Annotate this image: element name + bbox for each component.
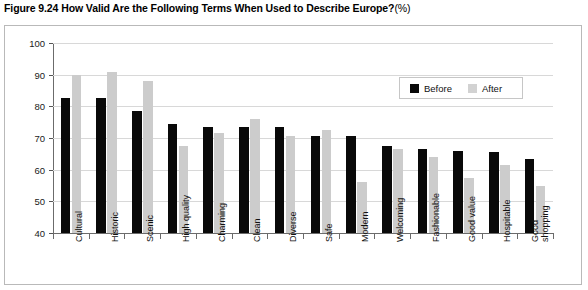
y-axis-tick-label: 40 bbox=[19, 228, 45, 239]
x-axis-category-label: Hospitable bbox=[503, 199, 513, 242]
x-axis-category-label: Welcoming bbox=[396, 198, 406, 242]
y-axis-tick-mark bbox=[49, 201, 53, 202]
x-axis-tick-mark bbox=[410, 234, 411, 239]
x-axis-tick-mark bbox=[232, 234, 233, 239]
legend-item-after: After bbox=[468, 83, 502, 94]
x-axis-tick-mark bbox=[553, 234, 554, 239]
x-axis-category-label: Cultural bbox=[75, 211, 85, 242]
x-axis-category-label: Goodshopping bbox=[531, 205, 550, 242]
x-axis-category-label: Scenic bbox=[146, 215, 156, 242]
legend-label-after: After bbox=[482, 83, 502, 94]
x-axis-category-label: Clean bbox=[253, 218, 263, 242]
x-axis-category-label: Diverse bbox=[289, 211, 299, 242]
x-axis-tick-mark bbox=[267, 234, 268, 239]
y-axis-tick-label: 60 bbox=[19, 164, 45, 175]
y-axis-tick-mark bbox=[49, 75, 53, 76]
x-axis-tick-mark bbox=[517, 234, 518, 239]
x-axis-category-label: Charming bbox=[218, 203, 228, 242]
x-axis-category-label: Safe bbox=[325, 223, 335, 242]
x-axis-category-label: Good value bbox=[468, 196, 478, 242]
gridline bbox=[53, 106, 553, 107]
y-axis-tick-label: 90 bbox=[19, 69, 45, 80]
legend-item-before: Before bbox=[410, 83, 452, 94]
x-axis-tick-mark bbox=[303, 234, 304, 239]
gridline bbox=[53, 43, 553, 44]
x-axis-category-label: Fashionable bbox=[432, 193, 442, 242]
gridline bbox=[53, 75, 553, 76]
gridline bbox=[53, 170, 553, 171]
y-axis-tick-mark bbox=[49, 106, 53, 107]
legend-swatch-before bbox=[410, 84, 419, 93]
bar-after-safe bbox=[322, 130, 332, 233]
bar-before-cultural bbox=[61, 98, 71, 233]
chart-frame: 100908070605040 CulturalHistoricScenicHi… bbox=[4, 25, 582, 285]
bar-before-modern bbox=[346, 136, 356, 233]
bar-before-historic bbox=[96, 98, 106, 233]
bar-after-clean bbox=[250, 119, 260, 233]
x-axis-tick-mark bbox=[446, 234, 447, 239]
bar-before-scenic bbox=[132, 111, 142, 233]
y-axis-tick-mark bbox=[49, 170, 53, 171]
y-axis-tick-label: 80 bbox=[19, 101, 45, 112]
x-axis-tick-mark bbox=[196, 234, 197, 239]
bar-after-cultural bbox=[72, 75, 82, 233]
y-axis-tick-label: 100 bbox=[19, 38, 45, 49]
bar-before-hospitable bbox=[489, 152, 499, 233]
figure-title: Figure 9.24 How Valid Are the Following … bbox=[4, 2, 584, 14]
bar-before-good-value bbox=[453, 151, 463, 233]
legend-label-before: Before bbox=[424, 83, 452, 94]
x-axis-tick-mark bbox=[482, 234, 483, 239]
y-axis-tick-mark bbox=[49, 43, 53, 44]
bar-after-scenic bbox=[143, 81, 153, 233]
x-axis-category-label: Modern bbox=[361, 211, 371, 242]
figure-title-text: Figure 9.24 How Valid Are the Following … bbox=[4, 2, 394, 14]
gridline bbox=[53, 138, 553, 139]
y-axis-tick-mark bbox=[49, 138, 53, 139]
bar-before-high-quality bbox=[168, 124, 178, 233]
y-axis-tick-label: 50 bbox=[19, 196, 45, 207]
plot-region bbox=[53, 43, 553, 233]
bar-after-historic bbox=[107, 72, 117, 234]
bar-before-fashionable bbox=[418, 149, 428, 233]
bar-before-welcoming bbox=[382, 146, 392, 233]
bar-before-diverse bbox=[275, 127, 285, 233]
bar-before-clean bbox=[239, 127, 249, 233]
legend-swatch-after bbox=[468, 84, 477, 93]
x-axis-tick-mark bbox=[374, 234, 375, 239]
x-axis-category-label: High quality bbox=[182, 195, 192, 242]
bar-before-charming bbox=[203, 127, 213, 233]
y-axis-tick-label: 70 bbox=[19, 133, 45, 144]
gridline bbox=[53, 201, 553, 202]
x-axis-category-label: Historic bbox=[111, 212, 121, 242]
x-axis-tick-mark bbox=[339, 234, 340, 239]
figure-title-unit: (%) bbox=[394, 2, 410, 14]
x-axis-tick-mark bbox=[124, 234, 125, 239]
bar-before-safe bbox=[311, 136, 321, 233]
x-axis-tick-mark bbox=[53, 234, 54, 239]
x-axis-tick-mark bbox=[89, 234, 90, 239]
x-axis-tick-mark bbox=[160, 234, 161, 239]
chart-legend: BeforeAfter bbox=[399, 77, 523, 99]
